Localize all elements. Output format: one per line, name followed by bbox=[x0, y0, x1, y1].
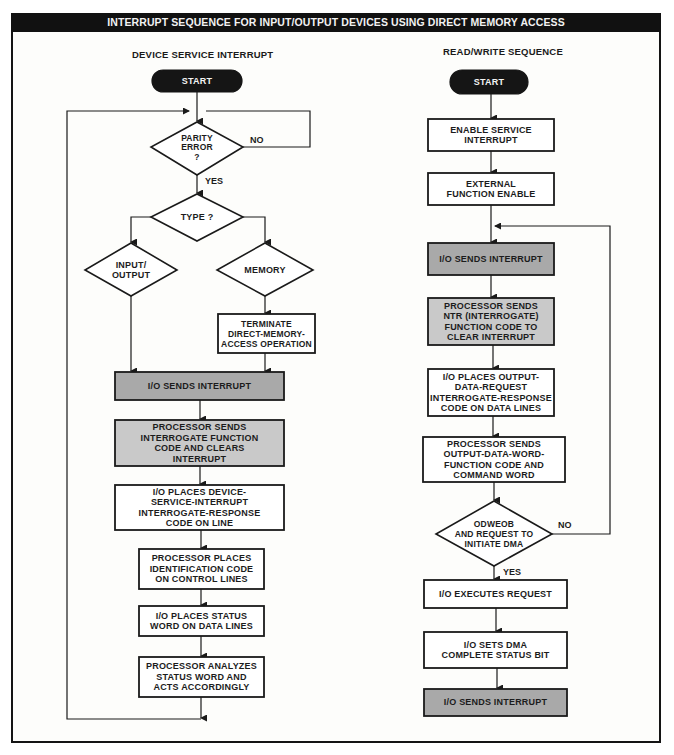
memory-label: MEMORY bbox=[228, 262, 302, 278]
parity-yes-label: YES bbox=[205, 176, 223, 186]
left-io-sends-interrupt-label: I/O SENDS INTERRUPT bbox=[115, 372, 284, 400]
terminate-dma-label: TERMINATE DIRECT-MEMORY- ACCESS OPERATIO… bbox=[218, 314, 315, 353]
parity-no-label: NO bbox=[250, 135, 264, 145]
processor-analyzes-label: PROCESSOR ANALYZES STATUS WORD AND ACTS … bbox=[139, 657, 264, 697]
io-sets-dma-complete-label: I/O SETS DMA COMPLETE STATUS BIT bbox=[424, 632, 567, 668]
input-output-label: INPUT/ OUTPUT bbox=[96, 258, 166, 282]
flowchart-connectors bbox=[0, 0, 674, 755]
processor-sends-interrogate-label: PROCESSOR SENDS INTERROGATE FUNCTION COD… bbox=[115, 420, 284, 466]
right-start-label: START bbox=[450, 70, 528, 94]
processor-sends-ntr-label: PROCESSOR SENDS NTR (INTERROGATE) FUNCTI… bbox=[428, 298, 554, 345]
io-places-output-data-request-label: I/O PLACES OUTPUT- DATA-REQUEST INTERROG… bbox=[428, 369, 554, 416]
left-start-label: START bbox=[152, 70, 242, 92]
type-label: TYPE ? bbox=[160, 208, 234, 226]
parity-error-label: PARITY ERROR ? bbox=[161, 128, 233, 168]
processor-places-id-label: PROCESSOR PLACES IDENTIFICATION CODE ON … bbox=[139, 549, 264, 589]
odweob-no-label: NO bbox=[558, 520, 572, 530]
right-io-sends-interrupt-end-label: I/O SENDS INTERRUPT bbox=[424, 689, 567, 716]
processor-sends-odw-label: PROCESSOR SENDS OUTPUT-DATA-WORD- FUNCTI… bbox=[423, 437, 565, 482]
io-executes-request-label: I/O EXECUTES REQUEST bbox=[424, 580, 567, 608]
io-places-status-label: I/O PLACES STATUS WORD ON DATA LINES bbox=[139, 606, 264, 636]
right-io-sends-interrupt-label: I/O SENDS INTERRUPT bbox=[428, 243, 554, 275]
odweob-yes-label: YES bbox=[503, 567, 521, 577]
io-places-device-service-label: I/O PLACES DEVICE- SERVICE-INTERRUPT INT… bbox=[115, 485, 284, 530]
odweob-label: ODWEOB AND REQUEST TO INITIATE DMA bbox=[449, 516, 539, 552]
external-function-enable-label: EXTERNAL FUNCTION ENABLE bbox=[428, 173, 554, 205]
enable-service-interrupt-label: ENABLE SERVICE INTERRUPT bbox=[428, 119, 554, 151]
